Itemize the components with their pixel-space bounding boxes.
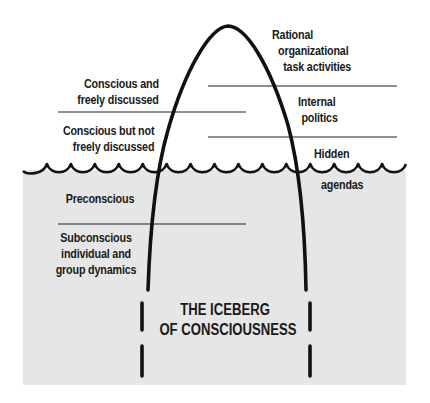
label-line: organizational xyxy=(272,43,351,59)
label-line: Conscious but not xyxy=(63,123,154,139)
label-agendas: agendas xyxy=(321,177,363,193)
label-line: Internal xyxy=(298,94,338,110)
label-line: Subconscious xyxy=(46,230,146,246)
title-line: OF CONSCIOUSNESS xyxy=(159,320,290,340)
label-line: freely discussed xyxy=(63,139,154,155)
label-internal-politics: Internal politics xyxy=(298,94,338,126)
label-conscious-freely-discussed: Conscious and freely discussed xyxy=(77,76,159,108)
title-line: THE ICEBERG xyxy=(159,300,290,320)
label-line: Rational xyxy=(272,27,351,43)
label-preconscious: Preconscious xyxy=(57,191,143,207)
label-line: freely discussed xyxy=(77,92,159,108)
label-line: group dynamics xyxy=(46,262,146,278)
label-line: task activities xyxy=(272,59,351,75)
label-line: Conscious and xyxy=(77,76,159,92)
label-line: Preconscious xyxy=(57,191,143,207)
label-hidden: Hidden xyxy=(314,146,349,162)
label-line: individual and xyxy=(46,246,146,262)
label-line: politics xyxy=(298,110,338,126)
diagram-title: THE ICEBERG OF CONSCIOUSNESS xyxy=(159,300,290,340)
label-conscious-not-freely-discussed: Conscious but not freely discussed xyxy=(63,123,154,155)
label-line: agendas xyxy=(321,177,363,193)
label-line: Hidden xyxy=(314,146,349,162)
label-rational-task-activities: Rational organizational task activities xyxy=(272,27,351,75)
label-subconscious-dynamics: Subconscious individual and group dynami… xyxy=(46,230,146,278)
